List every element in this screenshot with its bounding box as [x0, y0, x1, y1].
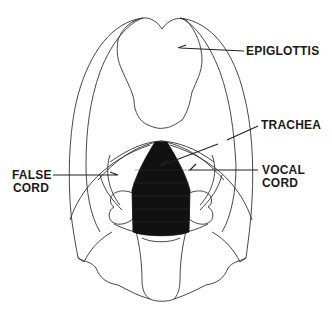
glottis-opening	[132, 142, 190, 236]
left-arytenoid	[109, 191, 133, 224]
false-cord-label-line2: CORD	[12, 182, 50, 195]
epiglottis-leader	[178, 45, 244, 51]
larynx-diagram: EPIGLOTTIS TRACHEA VOCAL CORD FALSE CORD	[0, 0, 332, 310]
outer-outline	[69, 18, 143, 262]
false-cord-leader	[53, 172, 118, 175]
epiglottis-shape	[117, 18, 202, 129]
trachea-label: TRACHEA	[261, 119, 321, 132]
vocal-cord-label-line2: CORD	[262, 177, 298, 190]
epiglottis-label: EPIGLOTTIS	[246, 45, 319, 58]
right-arytenoid	[189, 191, 213, 224]
trachea-leader	[160, 126, 258, 166]
vocal-cord-leader	[188, 164, 258, 170]
